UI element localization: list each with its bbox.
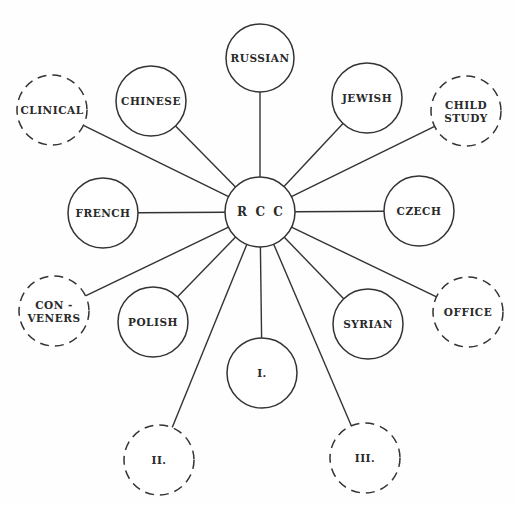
node-label: CLINICAL <box>20 104 83 116</box>
node-clinical[interactable]: CLINICAL <box>17 75 87 145</box>
node-conveners[interactable]: CON -VENERS <box>19 276 89 346</box>
center-label: R C C <box>237 205 283 219</box>
hub-diagram: RUSSIANCHINESEJEWISHCLINICALCHILDSTUDYFR… <box>0 0 515 505</box>
node-label: II. <box>152 454 167 466</box>
connector-polish <box>177 237 235 297</box>
connector-jewish <box>284 124 343 187</box>
center-node-rcc: R C C <box>225 177 295 247</box>
node-label: STUDY <box>444 112 488 124</box>
connector-czech <box>295 211 384 212</box>
node-group-ii[interactable]: II. <box>124 425 194 495</box>
node-label: VENERS <box>26 312 80 324</box>
node-label: RUSSIAN <box>231 52 290 64</box>
node-label: JEWISH <box>341 92 392 104</box>
node-syrian[interactable]: SYRIAN <box>333 289 403 359</box>
node-label: POLISH <box>128 316 178 328</box>
node-office[interactable]: OFFICE <box>433 277 503 347</box>
node-french[interactable]: FRENCH <box>68 178 138 248</box>
node-label: I. <box>257 367 267 379</box>
node-label: III. <box>355 452 375 464</box>
node-label: FRENCH <box>75 207 130 219</box>
node-group-iii[interactable]: III. <box>330 423 400 493</box>
node-polish[interactable]: POLISH <box>118 287 188 357</box>
connector-group-i <box>260 247 261 338</box>
node-russian[interactable]: RUSSIAN <box>226 24 294 92</box>
connector-chinese <box>176 126 236 187</box>
node-label: OFFICE <box>444 306 492 318</box>
node-label: CHILD <box>445 99 487 111</box>
connector-french <box>138 212 225 213</box>
node-group-i[interactable]: I. <box>227 338 297 408</box>
node-label: CHINESE <box>121 95 181 107</box>
node-label: CZECH <box>397 205 442 217</box>
node-chinese[interactable]: CHINESE <box>116 66 186 136</box>
diagram-svg: RUSSIANCHINESEJEWISHCLINICALCHILDSTUDYFR… <box>0 0 515 505</box>
node-label: CON - <box>35 299 73 311</box>
node-czech[interactable]: CZECH <box>384 176 454 246</box>
node-child-study[interactable]: CHILDSTUDY <box>431 76 501 146</box>
node-label: SYRIAN <box>343 318 392 330</box>
node-jewish[interactable]: JEWISH <box>332 63 402 133</box>
